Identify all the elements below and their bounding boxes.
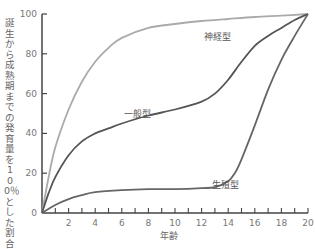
- y-tick-label: 40: [26, 128, 38, 138]
- x-tick-label: 4: [92, 218, 98, 228]
- curve-label: 神経型: [204, 31, 231, 42]
- x-tick-label: 14: [222, 218, 234, 228]
- y-tick-label: 100: [20, 9, 37, 19]
- x-tick-label: 2: [66, 218, 72, 228]
- curve-labels: 神経型一般型生殖型: [124, 31, 239, 190]
- x-tick-label: 6: [119, 218, 125, 228]
- x-tick-label: 10: [169, 218, 181, 228]
- curve-2: [42, 14, 308, 213]
- x-tick-label: 18: [276, 218, 288, 228]
- y-tick-label: 20: [26, 168, 38, 178]
- curve-label: 生殖型: [212, 179, 239, 190]
- curves: [42, 14, 308, 213]
- axes: 0204060801002468101214161820: [20, 9, 314, 228]
- x-tick-label: 16: [249, 218, 261, 228]
- curve-label: 一般型: [124, 108, 151, 119]
- x-tick-label: 12: [196, 218, 207, 228]
- y-tick-label: 80: [26, 49, 38, 59]
- y-tick-label: 60: [26, 89, 38, 99]
- curve-3: [42, 14, 308, 213]
- x-tick-label: 8: [146, 218, 152, 228]
- y-tick-label: 0: [31, 208, 37, 218]
- curve-1: [42, 14, 308, 213]
- x-tick-label: 20: [302, 218, 314, 228]
